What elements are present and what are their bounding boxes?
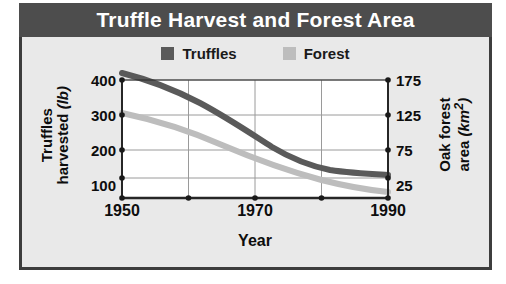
tick-dot-125: [385, 112, 391, 118]
tick-dot-1980: [319, 195, 325, 201]
tick-dot-300: [119, 112, 125, 118]
tick-dot-1960: [186, 195, 192, 201]
tick-dot-1950: [119, 195, 125, 201]
tick-dot-175: [385, 77, 391, 83]
tick-dot-1990: [385, 195, 391, 201]
tick-dot-100: [119, 175, 125, 181]
tick-dot-200: [119, 147, 125, 153]
tick-dot-1970: [252, 195, 258, 201]
tick-dot-25: [385, 175, 391, 181]
tick-dot-400: [119, 77, 125, 83]
plot-area: [0, 0, 506, 284]
tick-dot-75: [385, 147, 391, 153]
chart-figure: Truffle Harvest and Forest Area Truffles…: [0, 0, 506, 284]
